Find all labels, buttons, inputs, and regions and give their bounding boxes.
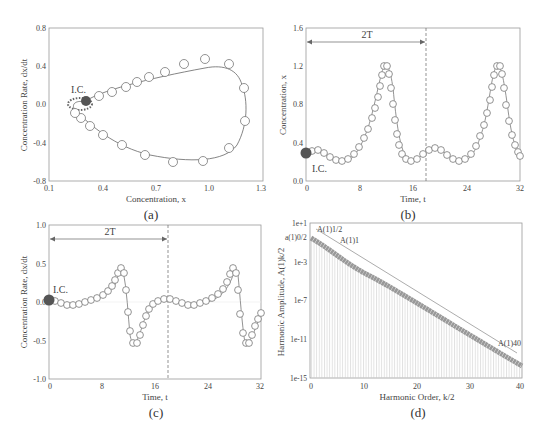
svg-text:16: 16 (409, 184, 417, 193)
svg-text:-0.4: -0.4 (33, 139, 46, 148)
initial-condition-marker-a (81, 96, 91, 106)
svg-text:0.1: 0.1 (44, 184, 54, 193)
svg-text:1e-7: 1e-7 (294, 296, 308, 305)
annotation-a0-d: a(1)0/2 (285, 233, 307, 242)
ic-annotation-a: I.C. (71, 84, 86, 95)
svg-text:1e+1: 1e+1 (292, 219, 307, 228)
chart-panel-c: 1.0 0.5 0.0 -0.5 -1.0 0 8 16 24 32 Time,… (0, 215, 272, 435)
x-axis-label-c: Time, t (142, 392, 168, 402)
svg-text:1e-11: 1e-11 (290, 335, 307, 344)
period-label-c: 2T (104, 226, 115, 237)
svg-text:40: 40 (516, 382, 524, 391)
svg-text:-0.5: -0.5 (33, 337, 46, 346)
svg-text:0: 0 (305, 184, 309, 193)
y-ticks-b: 1.6 1.2 0.8 0.4 0.0 (293, 24, 303, 186)
svg-text:0.8: 0.8 (293, 100, 303, 109)
caption-d: (d) (398, 405, 438, 421)
y-ticks-c: 1.0 0.5 0.0 -0.5 -1.0 (33, 221, 46, 384)
x-ticks-c: 0 8 16 24 32 (48, 382, 264, 391)
svg-text:8: 8 (100, 382, 104, 391)
svg-text:0.4: 0.4 (36, 62, 46, 71)
svg-text:-1.0: -1.0 (33, 375, 46, 384)
svg-text:10: 10 (360, 382, 368, 391)
svg-text:1e-3: 1e-3 (294, 258, 308, 267)
svg-text:1.2: 1.2 (293, 62, 303, 71)
initial-condition-marker-b (301, 148, 312, 159)
ic-annotation-b: I.C. (312, 163, 327, 174)
svg-text:0: 0 (48, 382, 52, 391)
svg-text:1e-15: 1e-15 (290, 374, 307, 383)
initial-condition-marker-c (44, 295, 55, 306)
y-axis-label-b: Concentration, x (278, 75, 288, 135)
svg-text:20: 20 (413, 382, 421, 391)
svg-text:0.4: 0.4 (98, 184, 108, 193)
annotation-a-half-d: A(1)1/2 (317, 225, 342, 234)
annotation-a40-d: A(1)40 (498, 339, 521, 348)
svg-text:16: 16 (151, 382, 159, 391)
chart-panel-b: 1.6 1.2 0.8 0.4 0.0 0 8 16 24 32 Time, t… (272, 0, 544, 215)
period-label-b: 2T (361, 29, 372, 40)
chart-panel-d: 1e+1 1e-3 1e-7 1e-11 1e-15 0 10 20 30 40… (272, 215, 544, 435)
svg-text:24: 24 (204, 382, 212, 391)
svg-text:0.8: 0.8 (36, 24, 46, 33)
ic-annotation-c: I.C. (53, 284, 68, 295)
markers-c (52, 265, 265, 347)
svg-text:0.0: 0.0 (36, 100, 46, 109)
caption-c: (c) (136, 405, 176, 421)
phase-plot-a: 0.8 0.4 0.0 -0.4 -0.8 0.1 0.4 0.7 1.0 1.… (0, 0, 272, 215)
x-axis-label-d: Harmonic Order, k/2 (380, 392, 455, 402)
markers-b (309, 63, 524, 165)
svg-text:1.0: 1.0 (36, 221, 46, 230)
trajectory-line-a (73, 67, 246, 160)
y-axis-label-a: Concentration Rate, dx/dt (19, 58, 29, 151)
time-series-c: 1.0 0.5 0.0 -0.5 -1.0 0 8 16 24 32 Time,… (0, 215, 272, 435)
svg-text:0.0: 0.0 (293, 177, 303, 186)
svg-text:1.0: 1.0 (204, 184, 214, 193)
y-axis-label-d: Harmonic Amplitude, A(1)k/2 (276, 248, 286, 357)
x-axis-label-b: Time, t (400, 194, 426, 204)
y-ticks-a: 0.8 0.4 0.0 -0.4 -0.8 (33, 24, 46, 186)
svg-text:30: 30 (466, 382, 474, 391)
x-axis-label-a: Concentration, x (126, 194, 186, 204)
svg-text:0.5: 0.5 (36, 260, 46, 269)
x-ticks-a: 0.1 0.4 0.7 1.0 1.3 (44, 184, 266, 193)
harmonic-spectrum-d: 1e+1 1e-3 1e-7 1e-11 1e-15 0 10 20 30 40… (272, 215, 544, 435)
time-series-b: 1.6 1.2 0.8 0.4 0.0 0 8 16 24 32 Time, t… (272, 0, 544, 215)
svg-text:0.4: 0.4 (293, 139, 303, 148)
svg-text:1.3: 1.3 (256, 184, 266, 193)
svg-text:32: 32 (256, 382, 264, 391)
svg-text:0: 0 (309, 382, 313, 391)
x-ticks-d: 0 10 20 30 40 (309, 382, 524, 391)
y-ticks-d: 1e+1 1e-3 1e-7 1e-11 1e-15 (290, 219, 307, 383)
chart-panel-a: 0.8 0.4 0.0 -0.4 -0.8 0.1 0.4 0.7 1.0 1.… (0, 0, 272, 215)
svg-text:0.7: 0.7 (151, 184, 161, 193)
markers-a (71, 55, 250, 167)
svg-text:1.6: 1.6 (293, 24, 303, 33)
svg-text:8: 8 (358, 184, 362, 193)
svg-text:32: 32 (516, 184, 524, 193)
svg-text:24: 24 (463, 184, 471, 193)
y-axis-label-c: Concentration Rate, dx/dt (19, 255, 29, 348)
x-ticks-b: 0 8 16 24 32 (305, 184, 524, 193)
annotation-a1-d: A(1)1 (340, 236, 359, 245)
